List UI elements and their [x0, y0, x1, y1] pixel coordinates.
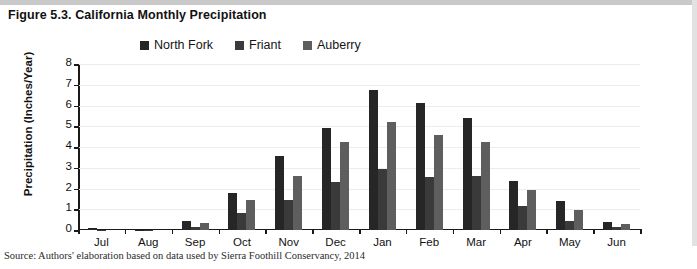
bar-north-fork-feb[interactable] — [416, 103, 425, 230]
figure-page: Figure 5.3. California Monthly Precipita… — [0, 0, 697, 269]
bar-auberry-nov[interactable] — [293, 176, 302, 230]
x-axis-tick — [265, 229, 267, 234]
source-caption: Source: Authors' elaboration based on da… — [4, 250, 365, 261]
bar-north-fork-oct[interactable] — [228, 193, 237, 230]
page-title: Figure 5.3. California Monthly Precipita… — [8, 8, 267, 22]
bar-auberry-dec[interactable] — [340, 142, 349, 230]
x-axis-tick — [406, 229, 408, 234]
bar-group-jan — [359, 64, 406, 230]
x-axis-tick — [172, 229, 174, 234]
chart-legend: North ForkFriantAuberry — [140, 38, 361, 52]
y-axis-tick-label: 4 — [54, 140, 72, 152]
bar-north-fork-apr[interactable] — [509, 181, 518, 230]
y-axis-tick-label: 0 — [54, 223, 72, 235]
bar-group-mar — [453, 64, 500, 230]
x-axis-label-oct: Oct — [233, 236, 251, 248]
plot-area: 012345678 — [78, 64, 640, 230]
bar-north-fork-sep[interactable] — [182, 221, 191, 230]
bar-auberry-jun[interactable] — [621, 224, 630, 230]
y-axis-title: Precipitation (Inches/Year) — [22, 44, 34, 204]
bar-north-fork-dec[interactable] — [322, 128, 331, 230]
legend-item-north-fork[interactable]: North Fork — [140, 38, 213, 52]
x-axis-tick — [546, 229, 548, 234]
bar-group-nov — [265, 64, 312, 230]
x-axis-tick — [312, 229, 314, 234]
y-axis-tick — [74, 106, 79, 108]
x-axis-label-jul: Jul — [94, 236, 109, 248]
y-axis-tick — [74, 85, 79, 87]
bar-north-fork-jul[interactable] — [88, 228, 97, 230]
bar-auberry-feb[interactable] — [434, 135, 443, 230]
legend-swatch-icon — [235, 41, 244, 50]
x-axis-label-apr: Apr — [514, 236, 532, 248]
bar-auberry-sep[interactable] — [200, 223, 209, 230]
legend-item-friant[interactable]: Friant — [235, 38, 281, 52]
bar-friant-nov[interactable] — [284, 200, 293, 230]
y-axis-tick-label: 5 — [54, 119, 72, 131]
y-axis-tick-label: 3 — [54, 161, 72, 173]
bar-friant-apr[interactable] — [518, 206, 527, 230]
bar-group-dec — [312, 64, 359, 230]
chart-area: Precipitation (Inches/Year) 012345678 Ju… — [0, 58, 697, 248]
bar-friant-jun[interactable] — [612, 227, 621, 230]
y-axis-tick-label: 2 — [54, 182, 72, 194]
bar-friant-mar[interactable] — [472, 176, 481, 230]
bar-group-aug — [125, 64, 172, 230]
legend-item-auberry[interactable]: Auberry — [303, 38, 361, 52]
legend-label: North Fork — [154, 38, 213, 52]
y-axis-tick — [74, 168, 79, 170]
bar-auberry-apr[interactable] — [527, 190, 536, 230]
bar-group-jul — [78, 64, 125, 230]
bar-groups — [78, 64, 640, 230]
y-axis-tick-label: 7 — [54, 78, 72, 90]
bar-group-may — [546, 64, 593, 230]
x-axis-tick — [125, 229, 127, 234]
bar-north-fork-nov[interactable] — [275, 156, 284, 230]
page-top-edge — [0, 0, 697, 5]
bar-friant-oct[interactable] — [237, 213, 246, 230]
x-axis-label-may: May — [559, 236, 581, 248]
y-axis-tick — [74, 126, 79, 128]
bar-group-sep — [172, 64, 219, 230]
y-axis-tick — [74, 209, 79, 211]
y-axis-tick-label: 8 — [54, 57, 72, 69]
y-axis-tick — [74, 189, 79, 191]
x-axis-tick — [78, 229, 80, 234]
y-axis-tick-label: 6 — [54, 99, 72, 111]
bar-friant-jan[interactable] — [378, 169, 387, 230]
y-axis-tick — [74, 64, 79, 66]
bar-group-jun — [593, 64, 640, 230]
legend-label: Friant — [249, 38, 281, 52]
x-axis-label-mar: Mar — [466, 236, 486, 248]
bar-auberry-jan[interactable] — [387, 122, 396, 230]
x-axis-label-aug: Aug — [138, 236, 158, 248]
x-axis-tick — [593, 229, 595, 234]
bar-north-fork-mar[interactable] — [463, 118, 472, 230]
bar-auberry-oct[interactable] — [246, 200, 255, 230]
x-axis-tick — [219, 229, 221, 234]
x-axis-label-sep: Sep — [185, 236, 205, 248]
x-axis-tick — [453, 229, 455, 234]
bar-friant-sep[interactable] — [191, 227, 200, 230]
bar-auberry-mar[interactable] — [481, 142, 490, 230]
x-axis-label-jan: Jan — [373, 236, 392, 248]
bar-group-feb — [406, 64, 453, 230]
x-axis-tick — [359, 229, 361, 234]
x-axis-tick — [500, 229, 502, 234]
x-axis-label-jun: Jun — [607, 236, 626, 248]
bar-north-fork-may[interactable] — [556, 201, 565, 230]
x-axis-label-nov: Nov — [279, 236, 299, 248]
legend-swatch-icon — [303, 41, 312, 50]
bar-friant-feb[interactable] — [425, 177, 434, 230]
bar-auberry-may[interactable] — [574, 210, 583, 230]
bar-friant-may[interactable] — [565, 221, 574, 230]
bar-friant-dec[interactable] — [331, 182, 340, 230]
legend-label: Auberry — [317, 38, 361, 52]
x-axis-tick — [640, 229, 642, 234]
legend-swatch-icon — [140, 41, 149, 50]
bar-group-oct — [219, 64, 266, 230]
bar-north-fork-jan[interactable] — [369, 90, 378, 230]
x-axis-label-dec: Dec — [325, 236, 345, 248]
bar-north-fork-jun[interactable] — [603, 222, 612, 230]
x-axis-label-feb: Feb — [419, 236, 439, 248]
